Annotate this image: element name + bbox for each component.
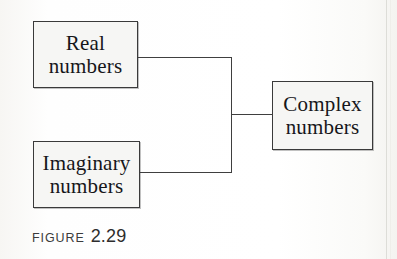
page-fold-line — [386, 0, 387, 259]
node-real-line1: Real — [66, 32, 105, 55]
connector-imaginary-horizontal — [140, 172, 232, 173]
node-box-complex-numbers: Complex numbers — [272, 81, 373, 150]
figure-container: Real numbers Imaginary numbers Complex n… — [0, 0, 397, 259]
figure-caption-label: FIGURE — [32, 231, 85, 245]
connector-real-horizontal — [138, 57, 232, 58]
node-imaginary-line1: Imaginary — [42, 152, 130, 175]
node-box-real-numbers: Real numbers — [33, 21, 138, 88]
figure-caption-number: 2.29 — [91, 226, 127, 247]
node-complex-line2: numbers — [286, 116, 360, 139]
connector-bracket-vertical — [231, 57, 232, 173]
figure-caption: FIGURE 2.29 — [32, 226, 126, 247]
node-box-imaginary-numbers: Imaginary numbers — [33, 141, 140, 208]
page-fold-line-secondary — [390, 0, 391, 259]
connector-complex-horizontal — [231, 114, 273, 115]
node-complex-line1: Complex — [283, 93, 361, 116]
node-real-line2: numbers — [49, 55, 123, 78]
node-imaginary-line2: numbers — [50, 175, 124, 198]
